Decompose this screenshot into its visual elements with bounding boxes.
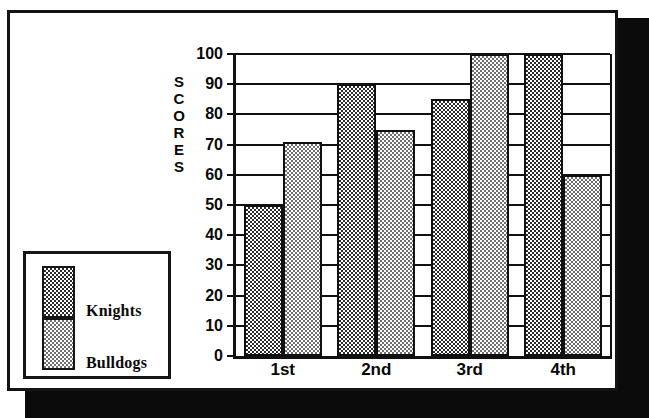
x-tick-label-2nd: 2nd — [361, 360, 391, 380]
y-axis-title-letter-2: O — [169, 107, 189, 124]
y-axis-title-letter-1: C — [169, 90, 189, 107]
y-tick-label-70: 70 — [205, 136, 223, 154]
y-tick-80 — [227, 113, 236, 115]
chart-card: Knights Bulldogs SCORES 0102030405060708… — [7, 10, 618, 391]
y-tick-60 — [227, 174, 236, 176]
y-tick-20 — [227, 295, 236, 297]
bar-bulldogs-2nd — [376, 130, 415, 357]
y-tick-70 — [227, 144, 236, 146]
y-tick-label-30: 30 — [205, 256, 223, 274]
x-tick-label-4th: 4th — [551, 360, 577, 380]
chart-card-wrapper: Knights Bulldogs SCORES 0102030405060708… — [0, 0, 649, 418]
x-tick-label-3rd: 3rd — [457, 360, 483, 380]
y-tick-50 — [227, 204, 236, 206]
y-tick-100 — [227, 53, 236, 55]
y-tick-10 — [227, 325, 236, 327]
y-tick-label-0: 0 — [214, 347, 223, 365]
y-axis-title-letter-5: S — [169, 158, 189, 175]
y-tick-label-90: 90 — [205, 75, 223, 93]
y-tick-0 — [227, 355, 236, 357]
x-tick-label-1st: 1st — [270, 360, 295, 380]
y-axis-title: SCORES — [169, 73, 189, 175]
bar-knights-4th — [524, 54, 563, 356]
bar-bulldogs-1st — [283, 142, 322, 356]
bar-bulldogs-3rd — [470, 54, 509, 356]
y-tick-90 — [227, 83, 236, 85]
bar-knights-2nd — [337, 84, 376, 356]
y-tick-label-20: 20 — [205, 287, 223, 305]
legend-swatch-knights — [42, 266, 75, 318]
legend-label-bulldogs: Bulldogs — [86, 354, 147, 372]
y-tick-label-100: 100 — [196, 45, 223, 63]
y-tick-label-10: 10 — [205, 317, 223, 335]
y-tick-40 — [227, 234, 236, 236]
y-tick-label-80: 80 — [205, 105, 223, 123]
legend-swatch-bulldogs — [42, 318, 75, 370]
bar-bulldogs-4th — [563, 175, 602, 356]
bar-knights-1st — [244, 205, 283, 356]
legend-item-knights: Knights — [42, 266, 162, 318]
bars-layer — [236, 54, 610, 356]
y-axis-title-letter-4: E — [169, 141, 189, 158]
y-tick-label-60: 60 — [205, 166, 223, 184]
plot-area: 0102030405060708090100 1st2nd3rd4th — [233, 54, 612, 359]
y-axis-title-letter-3: R — [169, 124, 189, 141]
y-tick-label-50: 50 — [205, 196, 223, 214]
y-axis-title-letter-0: S — [169, 73, 189, 90]
legend-item-bulldogs: Bulldogs — [42, 318, 162, 370]
bar-knights-3rd — [431, 99, 470, 356]
chart-legend: Knights Bulldogs — [23, 251, 171, 379]
y-tick-label-40: 40 — [205, 226, 223, 244]
y-tick-30 — [227, 264, 236, 266]
